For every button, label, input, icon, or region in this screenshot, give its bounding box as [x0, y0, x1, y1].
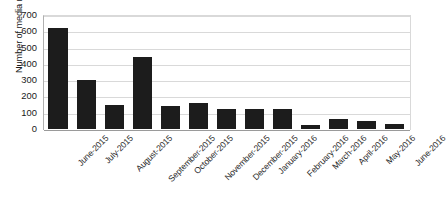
bar	[357, 121, 376, 129]
bar-slot	[329, 15, 348, 129]
bar	[189, 103, 208, 129]
y-axis-tick-labels: 7006005004003002001000	[0, 0, 41, 131]
bar	[217, 109, 236, 129]
bars-layer	[44, 15, 409, 129]
bar-slot	[301, 15, 320, 129]
bar	[245, 109, 264, 129]
bar-slot	[385, 15, 404, 129]
bar	[273, 109, 292, 129]
x-axis-tick-labels: June-2015July-2015August-2015September-2…	[44, 131, 409, 206]
x-tick-label: June-2016	[413, 133, 447, 168]
bar-slot	[245, 15, 264, 129]
bar-slot	[48, 15, 67, 129]
bar-slot	[217, 15, 236, 129]
y-tick-label: 700	[21, 10, 37, 20]
bar-slot	[161, 15, 180, 129]
x-tick-label: June-2015	[76, 133, 111, 168]
bar	[133, 57, 152, 129]
y-tick-label: 0	[32, 124, 37, 134]
y-tick-label: 300	[21, 75, 37, 85]
bar	[301, 125, 320, 129]
bar-slot	[133, 15, 152, 129]
x-tick-label: August-2015	[134, 133, 174, 173]
bar	[77, 80, 96, 129]
bar	[161, 106, 180, 129]
bar	[105, 105, 124, 129]
y-tick-label: 200	[21, 91, 37, 101]
bar-slot	[189, 15, 208, 129]
bar-slot	[357, 15, 376, 129]
y-tick-label: 500	[21, 43, 37, 53]
bar	[385, 124, 404, 129]
bar	[48, 28, 67, 129]
bar-slot	[105, 15, 124, 129]
y-tick-label: 600	[21, 26, 37, 36]
y-tick-label: 100	[21, 108, 37, 118]
bar	[329, 119, 348, 129]
bar-slot	[77, 15, 96, 129]
y-tick-label: 400	[21, 59, 37, 69]
bar-slot	[273, 15, 292, 129]
